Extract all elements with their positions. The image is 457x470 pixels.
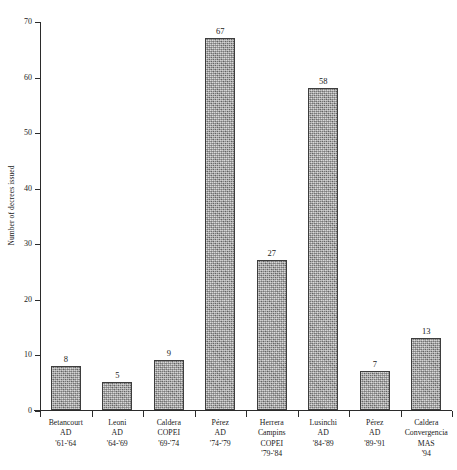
y-axis-tick (35, 133, 40, 134)
bar (257, 260, 287, 410)
x-axis-category-line: Caldera (140, 418, 198, 428)
bar-value-label: 27 (252, 248, 292, 258)
x-axis-category-label: HerreraCampinsCOPEI'79-'84 (243, 418, 301, 459)
x-axis-category-label: CalderaCOPEI'69-'74 (140, 418, 198, 449)
y-axis-line (40, 22, 41, 411)
x-axis-category-label: PérezAD'74-'79 (191, 418, 249, 449)
x-axis-tick (452, 411, 453, 417)
bar-value-label: 13 (406, 326, 446, 336)
bar-chart: Number of decrees issued 010203040506070… (0, 0, 457, 470)
bar-value-label: 7 (355, 359, 395, 369)
x-axis-category-label: CalderaConvergenciaMAS'94 (397, 418, 455, 459)
x-axis-category-line: Lusinchi (294, 418, 352, 428)
y-axis-title-text: Number of decrees issued (7, 165, 16, 245)
y-axis-tick-label: 60 (16, 73, 32, 82)
x-axis-category-line: Pérez (191, 418, 249, 428)
bar-value-label: 9 (149, 348, 189, 358)
y-axis-tick-label: 20 (16, 295, 32, 304)
bar-value-label: 58 (303, 76, 343, 86)
x-axis-tick (246, 411, 247, 417)
x-axis-category-label: PérezAD'89-'91 (346, 418, 404, 449)
y-axis-tick-label: 30 (16, 239, 32, 248)
x-axis-category-line: AD (37, 428, 95, 438)
bar-value-label: 5 (97, 370, 137, 380)
bar (154, 360, 184, 410)
x-axis-category-line: '89-'91 (346, 439, 404, 449)
y-axis-tick-label: 10 (16, 350, 32, 359)
x-axis-category-line: AD (88, 428, 146, 438)
x-axis-category-line: Pérez (346, 418, 404, 428)
plot-area: 010203040506070 859672758713 (40, 22, 452, 411)
x-axis-category-line: '69-'74 (140, 439, 198, 449)
bar (51, 366, 81, 410)
y-axis-tick (35, 78, 40, 79)
y-axis-title: Number of decrees issued (2, 0, 20, 410)
y-axis-tick-label: 40 (16, 184, 32, 193)
x-axis-category-line: COPEI (140, 428, 198, 438)
bar-value-label: 67 (200, 26, 240, 36)
x-axis-category-line: AD (346, 428, 404, 438)
x-axis-category-line: '84-'89 (294, 439, 352, 449)
x-axis-category-line: MAS (397, 439, 455, 449)
y-axis-tick (35, 300, 40, 301)
x-axis-tick (92, 411, 93, 417)
x-axis-category-line: '64-'69 (88, 439, 146, 449)
x-axis-tick (40, 411, 41, 417)
bar (102, 382, 132, 410)
y-axis-tick (35, 244, 40, 245)
x-axis-tick (298, 411, 299, 417)
y-axis-tick (35, 189, 40, 190)
y-axis-tick-label: 70 (16, 17, 32, 26)
x-axis-category-line: '79-'84 (243, 449, 301, 459)
x-axis-category-label: BetancourtAD'61-'64 (37, 418, 95, 449)
x-axis-category-line: '61-'64 (37, 439, 95, 449)
x-axis-category-label: LeoniAD'64-'69 (88, 418, 146, 449)
x-axis-category-line: '74-'79 (191, 439, 249, 449)
y-axis-tick-label: 0 (16, 406, 32, 415)
x-axis-category-line: Leoni (88, 418, 146, 428)
bar-value-label: 8 (46, 354, 86, 364)
y-axis-tick (35, 355, 40, 356)
x-axis-category-line: AD (191, 428, 249, 438)
x-axis-category-line: Betancourt (37, 418, 95, 428)
x-axis-tick (349, 411, 350, 417)
y-axis-tick-label: 50 (16, 128, 32, 137)
x-axis-tick (143, 411, 144, 417)
x-axis-category-line: AD (294, 428, 352, 438)
x-axis-tick (195, 411, 196, 417)
x-axis-category-line: Herrera (243, 418, 301, 428)
bar (308, 88, 338, 410)
x-axis-tick (401, 411, 402, 417)
y-axis-tick (35, 22, 40, 23)
bar (205, 38, 235, 410)
x-axis-category-line: Caldera (397, 418, 455, 428)
x-axis-category-line: Convergencia (397, 428, 455, 438)
x-axis-line (34, 410, 452, 411)
x-axis-category-label: LusinchiAD'84-'89 (294, 418, 352, 449)
x-axis-category-line: Campins (243, 428, 301, 438)
x-axis-category-line: COPEI (243, 439, 301, 449)
bar (411, 338, 441, 410)
x-axis-category-line: '94 (397, 449, 455, 459)
bar (360, 371, 390, 410)
